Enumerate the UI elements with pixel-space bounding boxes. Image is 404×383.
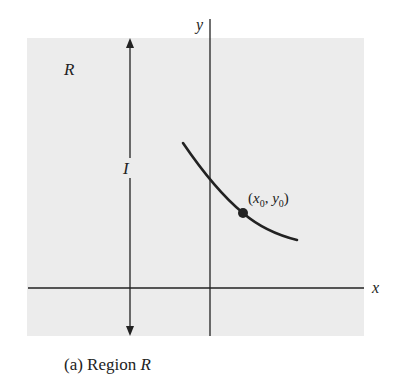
region-r-shading (27, 38, 364, 336)
initial-point-dot (238, 208, 248, 218)
x-axis-label: x (371, 279, 379, 296)
y-axis-label: y (194, 16, 204, 34)
region-label: R (63, 60, 75, 79)
region-diagram: R I y x (x0, y0) (a) Region R (0, 0, 404, 383)
figure-caption: (a) Region R (64, 355, 151, 374)
